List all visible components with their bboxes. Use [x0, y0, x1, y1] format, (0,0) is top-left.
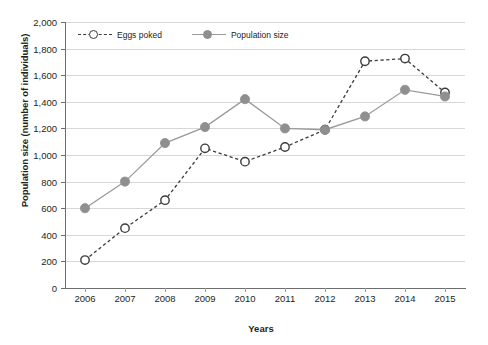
y-tick-label: 1,400	[5, 96, 57, 107]
data-point	[161, 196, 169, 204]
data-point	[121, 224, 129, 232]
y-tick-label: 1,600	[5, 70, 57, 81]
y-tick-label: 600	[5, 203, 57, 214]
x-tick-mark	[365, 288, 366, 292]
y-tick-mark	[61, 128, 65, 129]
x-tick-mark	[285, 288, 286, 292]
data-point	[120, 177, 129, 186]
y-tick-label: 0	[5, 283, 57, 294]
x-tick-mark	[125, 288, 126, 292]
y-tick-mark	[61, 22, 65, 23]
data-point	[401, 54, 409, 62]
y-tick-mark	[61, 49, 65, 50]
x-tick-mark	[245, 288, 246, 292]
x-tick-mark	[85, 288, 86, 292]
data-point	[440, 92, 449, 101]
y-tick-mark	[61, 208, 65, 209]
y-tick-label: 1,800	[5, 43, 57, 54]
x-tick-mark	[325, 288, 326, 292]
y-tick-mark	[61, 182, 65, 183]
y-tick-mark	[61, 288, 65, 289]
data-point	[240, 95, 249, 104]
series-line-population-size	[85, 90, 445, 208]
data-point	[200, 122, 209, 131]
data-point	[241, 157, 249, 165]
data-point	[400, 85, 409, 94]
figure-caption	[0, 336, 488, 345]
y-tick-mark	[61, 75, 65, 76]
data-point	[81, 256, 89, 264]
y-tick-mark	[61, 155, 65, 156]
x-tick-mark	[205, 288, 206, 292]
y-tick-label: 800	[5, 176, 57, 187]
x-tick-mark	[165, 288, 166, 292]
data-point	[160, 138, 169, 147]
y-tick-mark	[61, 235, 65, 236]
data-point	[201, 144, 209, 152]
x-tick-label: 2015	[415, 293, 475, 304]
data-point	[80, 204, 89, 213]
y-tick-mark	[61, 102, 65, 103]
y-tick-label: 400	[5, 229, 57, 240]
data-point	[280, 124, 289, 133]
data-point	[281, 143, 289, 151]
x-tick-mark	[405, 288, 406, 292]
series-line-eggs-poked	[85, 59, 445, 261]
data-point	[360, 112, 369, 121]
x-tick-mark	[445, 288, 446, 292]
y-tick-mark	[61, 261, 65, 262]
chart-figure: Population size (number of individuals) …	[0, 0, 488, 345]
y-tick-label: 2,000	[5, 17, 57, 28]
data-point	[361, 57, 369, 65]
y-tick-label: 1,000	[5, 150, 57, 161]
y-tick-label: 1,200	[5, 123, 57, 134]
data-point	[320, 125, 329, 134]
y-tick-label: 200	[5, 256, 57, 267]
